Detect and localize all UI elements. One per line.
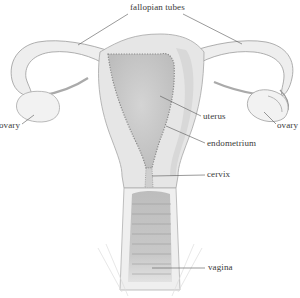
- anatomy-diagram: [0, 0, 300, 298]
- label-vagina: vagina: [208, 263, 233, 272]
- vagina: [120, 188, 180, 290]
- label-cervix: cervix: [207, 170, 230, 179]
- label-fallopian-tubes: fallopian tubes: [130, 3, 185, 12]
- label-ovary-right: ovary: [277, 121, 298, 130]
- left-fallopian-tube: [11, 41, 112, 96]
- label-ovary-left: ovary: [0, 121, 20, 130]
- cervical-canal: [145, 168, 153, 188]
- label-uterus: uterus: [203, 112, 226, 121]
- label-endometrium: endometrium: [207, 139, 256, 148]
- left-ovary: [16, 91, 59, 122]
